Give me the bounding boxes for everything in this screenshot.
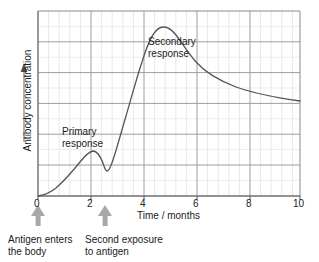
primary-response-line2: response <box>62 138 103 149</box>
caption-second-exposure-line2: to antigen <box>85 246 129 257</box>
secondary-response-line2: response <box>148 48 189 59</box>
x-tick-label-4: 4 <box>140 198 146 209</box>
secondary-response-label: Secondaryresponse <box>148 36 196 60</box>
caption-antigen-enters-line2: the body <box>8 246 46 257</box>
caption-antigen-enters-line1: Antigen enters <box>8 234 73 245</box>
x-tick-label-10: 10 <box>293 198 304 209</box>
caption-antigen-enters: Antigen entersthe body <box>8 234 73 258</box>
x-tick-label-0: 0 <box>34 198 40 209</box>
caption-second-exposure-line1: Second exposure <box>85 234 163 245</box>
caption-second-exposure: Second exposureto antigen <box>85 234 163 258</box>
primary-response-label: Primaryresponse <box>62 126 103 150</box>
y-axis-label: Antibody concentration <box>22 31 33 171</box>
marker-arrow-second-exposure <box>98 205 112 226</box>
x-tick-label-6: 6 <box>193 198 199 209</box>
x-axis-title: Time / months <box>137 210 200 222</box>
x-tick-label-2: 2 <box>87 198 93 209</box>
immune-response-figure: Antibody concentration 0 2 4 6 8 10 Time… <box>0 0 319 262</box>
x-tick-label-8: 8 <box>246 198 252 209</box>
primary-response-line1: Primary <box>62 126 96 137</box>
secondary-response-line1: Secondary <box>148 36 196 47</box>
